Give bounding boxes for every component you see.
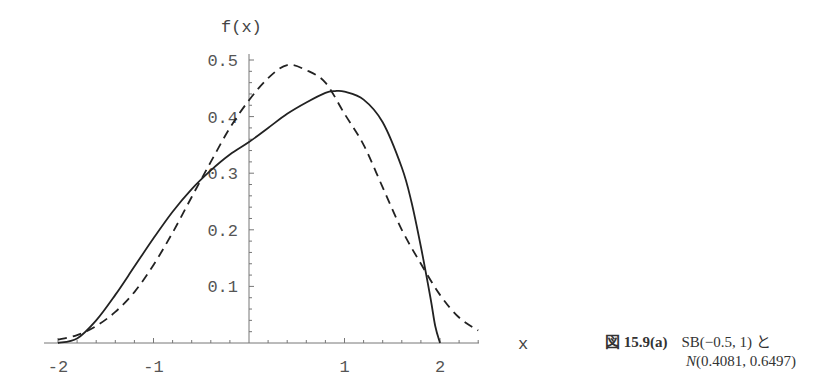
tick-labels: -2-1120.10.20.30.40.5 [48, 52, 445, 377]
y-tick-label: 0.3 [207, 165, 238, 184]
ticks [58, 60, 478, 343]
figure-label: 図 15.9(a) [605, 334, 668, 350]
y-axis-title: f(x) [221, 18, 262, 37]
y-tick-label: 0.2 [207, 222, 238, 241]
y-tick-label: 0.1 [207, 278, 238, 297]
y-tick-label: 0.5 [207, 52, 238, 71]
x-axis-title: x [518, 335, 528, 354]
caption-dist: N [686, 353, 696, 369]
normal-curve [58, 65, 478, 340]
x-tick-label: 2 [435, 358, 445, 377]
x-tick-label: 1 [339, 358, 349, 377]
curves [58, 65, 478, 343]
figure-caption: 図 15.9(a)SB(−0.5, 1) と N(0.4081, 0.6497) [605, 333, 796, 371]
x-tick-label: -1 [143, 358, 163, 377]
caption-line1: SB(−0.5, 1) と [682, 334, 771, 350]
x-tick-label: -2 [48, 358, 68, 377]
caption-params: (0.4081, 0.6497) [696, 353, 796, 369]
y-tick-label: 0.4 [207, 109, 238, 128]
axes [44, 54, 479, 343]
density-plot: -2-1120.10.20.30.40.5 f(x) x [0, 0, 823, 390]
